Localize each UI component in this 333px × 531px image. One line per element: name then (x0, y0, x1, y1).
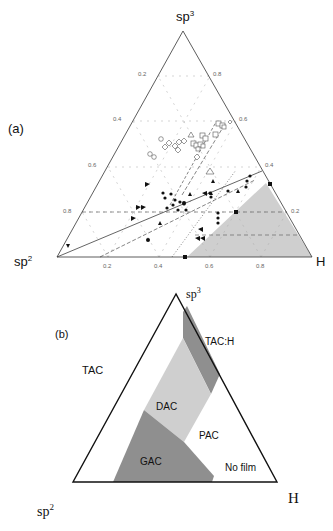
tick-right-0.8: 0.8 (213, 71, 222, 77)
region-label-tac-h: TAC:H (205, 336, 234, 347)
panel-a: 0.2 0.4 0.6 0.8 0.8 0.6 0.4 0.2 0.2 0.4 … (8, 9, 325, 269)
region-label-dac: DAC (156, 401, 177, 412)
tick-bottom-0.4: 0.4 (154, 263, 163, 269)
open-markers (148, 120, 232, 174)
tick-left-0.2: 0.2 (138, 71, 147, 77)
panel-label-a: (a) (8, 121, 24, 136)
region-label-no-film: No film (225, 462, 256, 473)
panel-label-b: (b) (55, 328, 68, 340)
vertex-label-sp2-b: sp2 (37, 502, 54, 519)
tick-right-0.4: 0.4 (265, 162, 274, 168)
vertex-label-h-b: H (288, 490, 299, 506)
tick-left-0.6: 0.6 (88, 162, 97, 168)
vertex-label-sp3-b: sp3 (186, 286, 201, 301)
tick-left-0.4: 0.4 (113, 116, 122, 122)
figure: 0.2 0.4 0.6 0.8 0.8 0.6 0.4 0.2 0.2 0.4 … (0, 0, 333, 531)
tick-bottom-0.2: 0.2 (103, 263, 112, 269)
tick-right-0.6: 0.6 (239, 116, 248, 122)
tick-left-0.8: 0.8 (63, 208, 72, 214)
vertex-label-h-a: H (316, 254, 325, 269)
tick-bottom-0.8: 0.8 (256, 263, 265, 269)
region-label-gac: GAC (140, 456, 162, 467)
vertex-label-sp3-a: sp3 (176, 9, 195, 24)
tick-right-0.2: 0.2 (291, 208, 300, 214)
region-label-pac: PAC (199, 430, 219, 441)
tick-bottom-0.6: 0.6 (205, 263, 214, 269)
vertex-label-sp2-a: sp2 (14, 254, 33, 269)
region-label-tac: TAC (82, 364, 103, 376)
panel-b: TAC:H TAC DAC PAC GAC No film sp3 sp2 H … (37, 286, 299, 519)
